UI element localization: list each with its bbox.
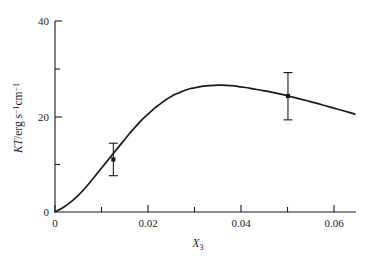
- chart-figure: 40 20 0 KT/erg s−1cm−1 0 0.02 0.04 0.06: [0, 0, 379, 265]
- x-axis-title-subscript: 3: [200, 243, 204, 252]
- y-axis-title-exp-2: −1: [12, 83, 21, 92]
- y-tick-label-0: 0: [44, 206, 50, 218]
- x-axis: 0 0.02 0.04 0.06: [52, 205, 356, 229]
- y-axis-title-units-2: cm: [12, 91, 24, 105]
- error-bar-1: [109, 143, 118, 175]
- y-axis-title-units-1: /erg s: [12, 113, 25, 139]
- x-tick-label-0p04: 0.04: [231, 217, 251, 229]
- kt-curve: [55, 85, 355, 212]
- error-bar-2-marker: [286, 94, 290, 98]
- y-axis: 40 20 0: [38, 15, 62, 218]
- line-chart: 40 20 0 KT/erg s−1cm−1 0 0.02 0.04 0.06: [0, 0, 379, 265]
- error-bars-group: [109, 73, 293, 176]
- svg-text:X3: X3: [191, 237, 203, 252]
- y-tick-label-20: 20: [38, 111, 50, 123]
- x-axis-title: X3: [191, 237, 203, 252]
- y-tick-label-40: 40: [38, 15, 50, 27]
- svg-text:KT/erg s−1cm−1: KT/erg s−1cm−1: [12, 83, 26, 154]
- x-tick-label-0p02: 0.02: [138, 217, 157, 229]
- y-axis-title-exp-1: −1: [12, 105, 21, 114]
- x-tick-label-0p06: 0.06: [324, 217, 344, 229]
- error-bar-1-marker: [111, 157, 115, 161]
- x-tick-label-0: 0: [52, 217, 58, 229]
- y-axis-title: KT/erg s−1cm−1: [12, 83, 26, 154]
